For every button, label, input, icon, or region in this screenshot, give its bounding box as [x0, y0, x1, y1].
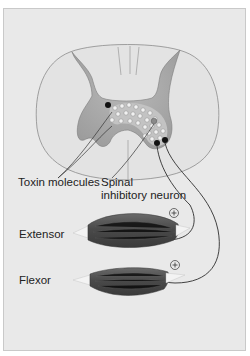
neuron-body-upper [105, 102, 111, 108]
inhibitory-neuron-body [151, 118, 157, 124]
extensor-muscle [73, 214, 190, 248]
flexor-excitation-icon [171, 261, 180, 270]
neuron-body-motor-2 [162, 137, 168, 143]
spinal-neuron-label-line2: inhibitory neuron [101, 189, 186, 202]
flexor-label: Flexor [19, 274, 51, 287]
flexor-muscle [73, 268, 185, 296]
toxin-molecules-label: Toxin molecules [18, 176, 100, 189]
spinal-neuron-label-line1: Spinal [101, 176, 133, 189]
extensor-excitation-icon [170, 209, 179, 218]
neuron-body-motor-1 [154, 140, 160, 146]
extensor-label: Extensor [19, 228, 64, 241]
